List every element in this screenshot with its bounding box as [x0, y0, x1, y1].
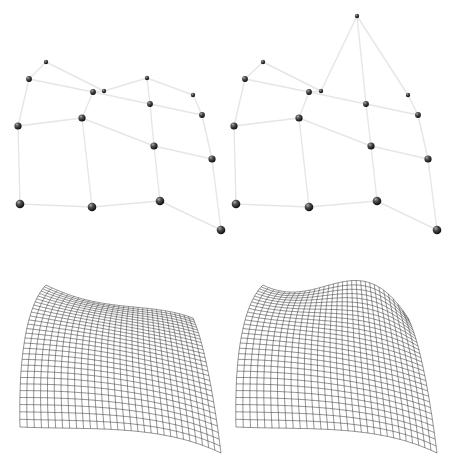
control-point-sphere[interactable] — [217, 226, 226, 235]
control-point-sphere[interactable] — [373, 197, 382, 206]
control-point-sphere[interactable] — [191, 93, 195, 97]
control-point-sphere[interactable] — [355, 14, 359, 18]
net-edge — [408, 95, 418, 115]
mesh-line — [236, 412, 435, 439]
control-point-sphere[interactable] — [145, 76, 149, 80]
control-point-sphere[interactable] — [306, 89, 312, 95]
mesh-line — [278, 292, 296, 428]
net-edge — [92, 201, 160, 207]
net-edge — [212, 159, 221, 230]
net-edge — [371, 146, 377, 201]
diagram-canvas — [0, 0, 463, 469]
net-edge — [234, 79, 245, 126]
mesh-line — [20, 419, 220, 446]
net-edge — [357, 16, 366, 104]
control-point-sphere[interactable] — [363, 101, 369, 107]
mesh-line — [114, 306, 119, 430]
net-edge — [309, 92, 366, 104]
control-point-sphere[interactable] — [147, 101, 153, 107]
control-point-sphere[interactable] — [433, 226, 442, 235]
net-edge — [309, 201, 377, 207]
control-point-sphere[interactable] — [367, 142, 374, 149]
control-point-sphere[interactable] — [14, 122, 21, 129]
net-edge — [234, 118, 299, 126]
net-edge — [236, 204, 309, 207]
control-point-sphere[interactable] — [230, 122, 237, 129]
net-edge — [299, 118, 371, 146]
net-edge — [321, 16, 357, 91]
net-edge — [428, 159, 437, 230]
net-edge — [150, 104, 202, 115]
net-edge — [371, 146, 428, 159]
control-point-sphere[interactable] — [232, 200, 241, 209]
control-point-sphere[interactable] — [44, 60, 48, 64]
control-point-sphere[interactable] — [295, 114, 302, 121]
net-edge — [18, 118, 82, 126]
mesh-line — [20, 427, 221, 453]
net-edge — [154, 146, 212, 159]
mesh-line — [30, 316, 203, 350]
net-edge — [234, 126, 236, 204]
mesh-line — [23, 348, 209, 380]
control-point-sphere[interactable] — [150, 142, 157, 149]
control-point-sphere[interactable] — [199, 112, 205, 118]
net-edge — [18, 126, 20, 204]
net-edge — [82, 118, 92, 207]
net-edge — [193, 95, 202, 115]
net-edge — [104, 78, 147, 91]
net-edge — [366, 104, 371, 146]
net-edge — [82, 92, 93, 118]
mesh-line — [252, 302, 415, 336]
mesh-line — [298, 290, 311, 429]
mesh-line — [250, 290, 274, 428]
control-point-sphere[interactable] — [156, 197, 165, 206]
mesh-line — [126, 307, 131, 431]
control-point-sphere[interactable] — [406, 93, 410, 97]
net-edge — [150, 104, 154, 146]
mesh-line — [22, 365, 213, 396]
control-point-sphere[interactable] — [16, 200, 25, 209]
control-point-sphere[interactable] — [90, 89, 96, 95]
mesh-line — [120, 306, 125, 430]
control-point-sphere[interactable] — [88, 203, 97, 212]
control-point-sphere[interactable] — [242, 76, 248, 82]
net-edge — [160, 201, 221, 230]
net-edge — [299, 92, 309, 118]
control-point-sphere[interactable] — [78, 114, 85, 121]
control-point-sphere[interactable] — [102, 89, 106, 93]
net-edge — [18, 79, 29, 126]
control-point-sphere[interactable] — [208, 155, 215, 162]
mesh-line — [28, 324, 205, 358]
mesh-line — [236, 419, 436, 446]
control-point-sphere[interactable] — [415, 112, 421, 118]
control-point-sphere[interactable] — [261, 60, 265, 64]
control-net-modified — [230, 14, 441, 235]
net-edge — [202, 115, 212, 159]
mesh-line — [336, 283, 341, 431]
net-edge — [418, 115, 428, 159]
net-edge — [263, 62, 321, 91]
net-edge — [357, 16, 408, 95]
mesh-line — [21, 371, 214, 402]
net-edge — [377, 201, 437, 230]
net-edge — [82, 118, 154, 146]
net-edge — [147, 78, 193, 95]
surface-original — [20, 285, 221, 453]
net-edge — [366, 104, 418, 115]
control-point-sphere[interactable] — [319, 89, 323, 93]
mesh-line — [236, 285, 263, 427]
mesh-line — [23, 354, 211, 386]
control-net-original — [14, 60, 225, 235]
control-point-sphere[interactable] — [26, 76, 32, 82]
control-point-sphere[interactable] — [424, 155, 431, 162]
net-edge — [154, 146, 160, 201]
net-edge — [299, 118, 309, 207]
mesh-line — [22, 359, 212, 391]
net-edge — [147, 78, 150, 104]
mesh-line — [257, 291, 280, 428]
net-edge — [29, 62, 46, 79]
control-point-sphere[interactable] — [305, 203, 314, 212]
mesh-line — [34, 290, 58, 427]
mesh-line — [21, 378, 215, 408]
surface-modified — [236, 281, 437, 454]
